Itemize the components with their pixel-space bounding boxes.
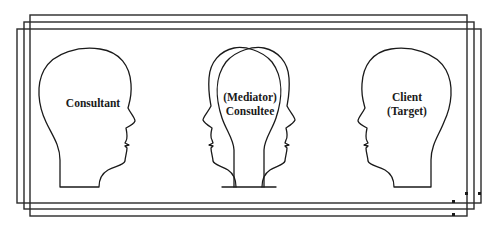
consultee-label-line-1: (Mediator) xyxy=(212,90,288,104)
consultant-label-line-1: Consultant xyxy=(58,96,128,110)
consultant-label: Consultant xyxy=(58,96,128,110)
client-label-line-1: Client xyxy=(372,90,442,104)
consultant-head-profile xyxy=(39,48,135,187)
consultee-label: (Mediator) Consultee xyxy=(212,90,288,118)
consultee-label-line-2: Consultee xyxy=(212,104,288,118)
client-label-line-2: (Target) xyxy=(372,104,442,118)
client-label: Client (Target) xyxy=(372,90,442,118)
